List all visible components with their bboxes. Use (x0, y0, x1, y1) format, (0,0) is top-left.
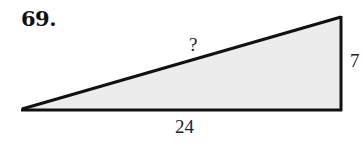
right-triangle-figure (0, 0, 364, 166)
base-label: 24 (175, 117, 194, 136)
vertical-side-label: 7 (350, 51, 360, 70)
hypotenuse-label: ? (189, 35, 197, 54)
